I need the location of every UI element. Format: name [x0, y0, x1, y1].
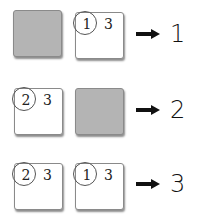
other-number: 3: [104, 15, 113, 33]
result-number: 2: [170, 95, 185, 125]
result-number: 1: [170, 19, 185, 49]
row-2: 2 3 2: [0, 88, 197, 138]
white-box: 1 3: [75, 12, 124, 59]
arrow-right-icon: [136, 29, 160, 39]
row-1: 1 3 1: [0, 10, 197, 60]
circled-number: 2: [20, 91, 32, 109]
gray-box: [13, 10, 62, 57]
gray-box: [75, 88, 124, 135]
row-3: 2 3 1 3 3: [0, 163, 197, 213]
circled-number: 2: [20, 166, 32, 184]
arrow-right-icon: [136, 179, 160, 189]
circled-number: 1: [81, 166, 93, 184]
white-box: 1 3: [75, 163, 124, 210]
other-number: 3: [43, 166, 52, 184]
circled-number: 1: [81, 15, 93, 33]
other-number: 3: [104, 166, 113, 184]
arrow-right-icon: [136, 105, 160, 115]
white-box: 2 3: [14, 88, 63, 135]
other-number: 3: [43, 91, 52, 109]
result-number: 3: [170, 169, 185, 199]
white-box: 2 3: [14, 163, 63, 210]
